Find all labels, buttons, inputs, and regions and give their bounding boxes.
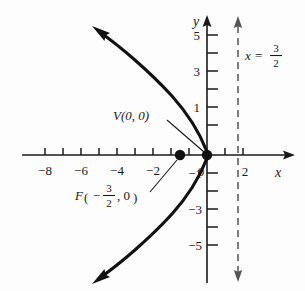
y-axis-label: y bbox=[191, 14, 200, 29]
focus-fraction-numerator: 3 bbox=[106, 182, 112, 194]
x-tick-label--2: −2 bbox=[146, 163, 160, 178]
focus-label-rest: , 0 bbox=[117, 188, 130, 203]
y-tick-label--3: −3 bbox=[188, 202, 202, 217]
y-tick-label-5: 5 bbox=[194, 28, 201, 43]
directrix-fraction-denominator: 2 bbox=[273, 57, 279, 69]
directrix-label-x: x bbox=[244, 48, 251, 63]
x-axis-group: −8 −6 −4 −2 0 2 x bbox=[22, 148, 295, 180]
focus-label-close-paren: ) bbox=[133, 190, 137, 205]
focus-group: F ( − 3 2 , 0 ) bbox=[74, 150, 185, 209]
focus-label-minus: − bbox=[93, 188, 100, 203]
focus-label-F: F bbox=[74, 188, 84, 203]
y-axis-ticks bbox=[207, 35, 218, 245]
directrix-label-equals: = bbox=[255, 48, 262, 63]
x-axis-ticks bbox=[45, 148, 243, 155]
parabola-figure: −8 −6 −4 −2 0 2 x bbox=[0, 0, 305, 291]
x-tick-label--4: −4 bbox=[110, 163, 124, 178]
focus-label: F ( − 3 2 , 0 ) bbox=[74, 182, 137, 209]
x-tick-label--6: −6 bbox=[74, 163, 88, 178]
y-tick-label-3: 3 bbox=[194, 64, 201, 79]
focus-point bbox=[175, 150, 185, 160]
x-axis-label: x bbox=[274, 165, 282, 180]
directrix-group: x = 3 2 bbox=[234, 16, 282, 282]
directrix-label: x = 3 2 bbox=[244, 42, 282, 69]
y-axis-group: 5 3 1 −1 −3 −5 y bbox=[188, 14, 218, 283]
y-tick-label--5: −5 bbox=[188, 238, 202, 253]
figure-canvas: −8 −6 −4 −2 0 2 x bbox=[0, 0, 305, 291]
focus-label-open-paren: ( bbox=[84, 190, 88, 205]
y-tick-label-1: 1 bbox=[194, 100, 201, 115]
vertex-point bbox=[202, 150, 212, 160]
directrix-top-arrowhead bbox=[234, 16, 242, 28]
x-tick-label-2: 2 bbox=[242, 164, 249, 179]
focus-fraction-denominator: 2 bbox=[106, 197, 112, 209]
directrix-fraction-numerator: 3 bbox=[273, 42, 279, 54]
vertex-label: V(0, 0) bbox=[113, 108, 149, 123]
x-tick-label--8: −8 bbox=[38, 163, 52, 178]
directrix-bottom-arrowhead bbox=[234, 270, 242, 282]
